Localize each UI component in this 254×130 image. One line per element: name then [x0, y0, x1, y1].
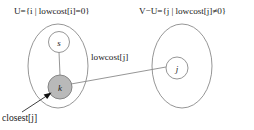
closest-annotation-label: closest[j]	[2, 112, 37, 123]
edge-s-to-k	[59, 52, 60, 75]
node-j-label: j	[175, 64, 179, 74]
set-v-minus-u-definition-label: V−U={j | lowcost[j]≠0}	[139, 6, 226, 16]
edge-k-to-j	[71, 67, 166, 84]
set-u-definition-label: U={i | lowcost[i]=0}	[14, 6, 90, 16]
diagram-canvas: s k j U={i | lowcost[i]=0} V−U={j | lowc…	[0, 0, 254, 130]
edge-weight-label: lowcost[j]	[91, 52, 128, 62]
closest-pointer-arrowhead	[44, 93, 52, 99]
node-s-label: s	[57, 38, 61, 48]
diagram-figure: s k j	[0, 0, 254, 130]
